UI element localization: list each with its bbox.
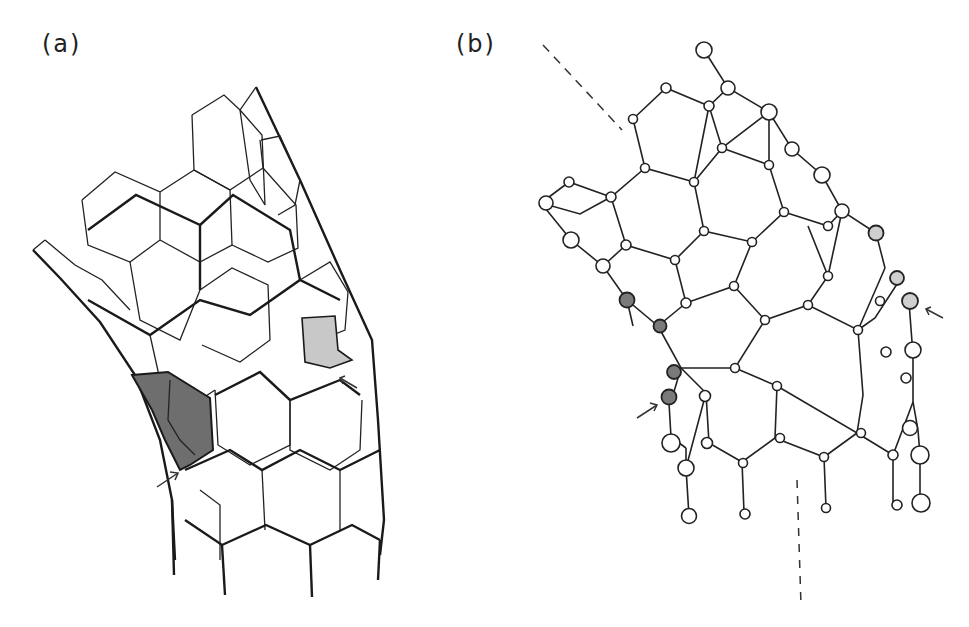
panel-b-arrow-light <box>926 307 943 318</box>
panel-b-atoms <box>539 42 930 524</box>
panel-b-arrow-dark <box>637 403 657 418</box>
panel-b-ball-stick-diagram <box>0 0 969 627</box>
panel-b-dashed-axis-bottom <box>797 480 801 605</box>
panel-b-dashed-axis-top <box>543 45 622 130</box>
